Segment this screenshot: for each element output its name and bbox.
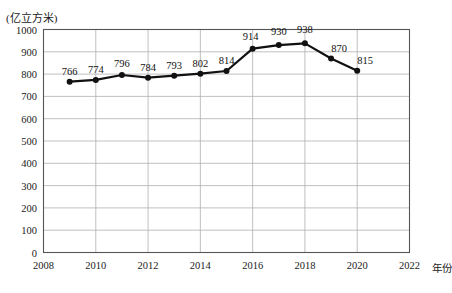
- data-point-label: 766: [62, 66, 78, 77]
- data-point-marker: [67, 79, 73, 85]
- data-point-marker: [276, 42, 282, 48]
- data-point-label: 784: [140, 62, 156, 73]
- data-point-marker: [119, 72, 125, 78]
- data-point-label: 814: [219, 55, 235, 66]
- data-point-marker: [328, 55, 334, 61]
- data-point-marker: [302, 40, 308, 46]
- data-point-marker: [171, 73, 177, 79]
- data-point-marker: [354, 68, 360, 74]
- data-point-marker: [250, 46, 256, 52]
- data-point-label: 815: [357, 55, 373, 66]
- data-point-marker: [145, 75, 151, 81]
- data-point-label: 914: [243, 31, 259, 42]
- data-point-label: 802: [192, 58, 208, 69]
- series-line: [70, 43, 358, 81]
- data-point-marker: [197, 71, 203, 77]
- data-point-marker: [93, 77, 99, 83]
- data-point-label: 796: [114, 58, 130, 69]
- data-point-marker: [224, 68, 230, 74]
- data-point-label: 930: [271, 26, 287, 37]
- data-point-label: 793: [166, 60, 182, 71]
- data-point-label: 774: [88, 64, 104, 75]
- data-point-label: 870: [331, 43, 347, 54]
- data-point-label: 938: [297, 24, 313, 35]
